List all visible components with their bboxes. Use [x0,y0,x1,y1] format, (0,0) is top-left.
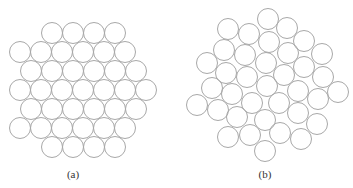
random-circle [269,93,290,114]
random-circle [256,53,277,74]
random-circle [291,129,312,150]
random-circle [307,114,328,135]
figure: (a) (b) [0,0,353,188]
random-circle [312,44,333,65]
random-circle [277,18,298,39]
random-circle [235,45,256,66]
random-circle [197,53,218,74]
panel-a-label: (a) [67,168,79,180]
random-circle [294,57,315,78]
random-circle [328,82,349,103]
random-circle [258,9,279,30]
random-circle [214,40,235,61]
random-circle [202,78,223,99]
random-circle [294,31,315,52]
random-circle [308,89,329,110]
random-circle [187,95,208,116]
random-circle [288,103,309,124]
random-circle [255,141,276,162]
random-circle [270,123,291,144]
random-circle [227,107,248,128]
random-circle [237,67,258,88]
random-circle [218,127,239,148]
random-circle [288,81,309,102]
random-circle [208,100,229,121]
random-circle [218,19,239,40]
random-circle [259,32,280,53]
random-circle [240,125,261,146]
panel-b-label: (b) [259,168,272,180]
panel-b-random-packing [0,0,353,188]
random-circle [239,24,260,45]
